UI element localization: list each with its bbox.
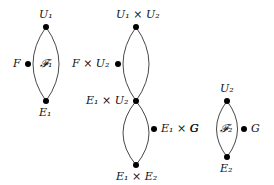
- node-e1xe2: [133, 162, 139, 168]
- node-g: [241, 126, 247, 132]
- label-u2: U₂: [220, 83, 234, 94]
- side-label-g: G: [190, 123, 199, 134]
- node-u1: [43, 24, 49, 30]
- node-u2: [224, 98, 230, 104]
- node-e1: [43, 98, 49, 104]
- node-e1xu2: [133, 98, 139, 104]
- label-u1: U₁: [39, 9, 53, 20]
- label-u1xu2: U₁ × U₂: [116, 9, 160, 20]
- label-e1: E₁: [39, 107, 51, 118]
- face-label-f2: 𝓕₂: [220, 123, 232, 134]
- node-e1xg: [151, 126, 157, 132]
- label-fxu2: F × U₂: [72, 58, 110, 69]
- node-e2: [224, 154, 230, 160]
- node-f: [25, 61, 31, 67]
- label-e2: E₂: [220, 163, 232, 174]
- label-f: F: [13, 58, 21, 69]
- label-e1xu2: E₁ × U₂: [86, 95, 128, 106]
- node-u1xu2: [133, 24, 139, 30]
- label-e1xe2: E₁ × E₂: [116, 171, 157, 182]
- label-g: G: [251, 123, 260, 134]
- node-fxu2: [115, 61, 121, 67]
- face-label-f1: 𝓕₁: [40, 58, 52, 69]
